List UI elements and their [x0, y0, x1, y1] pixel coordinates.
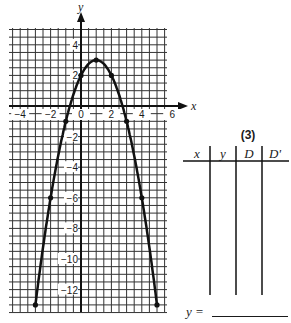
y-tick-label: −4 — [67, 162, 79, 173]
table-header-d: D — [236, 146, 262, 162]
x-tick-label: 4 — [139, 109, 145, 120]
x-tick-label: −4 — [14, 109, 26, 120]
table-label: (3) — [228, 128, 268, 142]
data-point — [48, 195, 53, 200]
y-tick-label: −6 — [67, 193, 79, 204]
data-point — [154, 302, 159, 307]
x-tick-label: 2 — [109, 109, 115, 120]
answer-label: y = — [186, 304, 204, 320]
data-point — [94, 58, 99, 63]
data-point — [78, 73, 83, 78]
data-point — [109, 73, 114, 78]
xy-table — [183, 146, 289, 295]
x-tick-label: 6 — [169, 109, 175, 120]
data-point — [124, 119, 129, 124]
x-axis-arrow-icon — [178, 102, 188, 110]
data-point — [63, 119, 68, 124]
data-point — [33, 302, 38, 307]
y-tick-label: −2 — [67, 132, 79, 143]
y-tick-label: 4 — [72, 40, 78, 51]
data-point — [139, 195, 144, 200]
x-tick-label: 0 — [78, 109, 84, 120]
y-tick-label: −12 — [61, 285, 78, 296]
answer-blank[interactable] — [212, 316, 288, 317]
y-axis-label: y — [77, 0, 84, 14]
x-axis-label: x — [190, 99, 197, 113]
grid — [9, 28, 167, 313]
x-tick-label: −2 — [45, 109, 57, 120]
y-tick-label: −10 — [61, 254, 78, 265]
y-tick-label: 2 — [72, 70, 78, 81]
table-header-y: y — [210, 146, 236, 162]
table-header-d-prime: D' — [262, 146, 288, 162]
table-header-x: x — [184, 146, 210, 162]
y-tick-label: −8 — [67, 223, 79, 234]
